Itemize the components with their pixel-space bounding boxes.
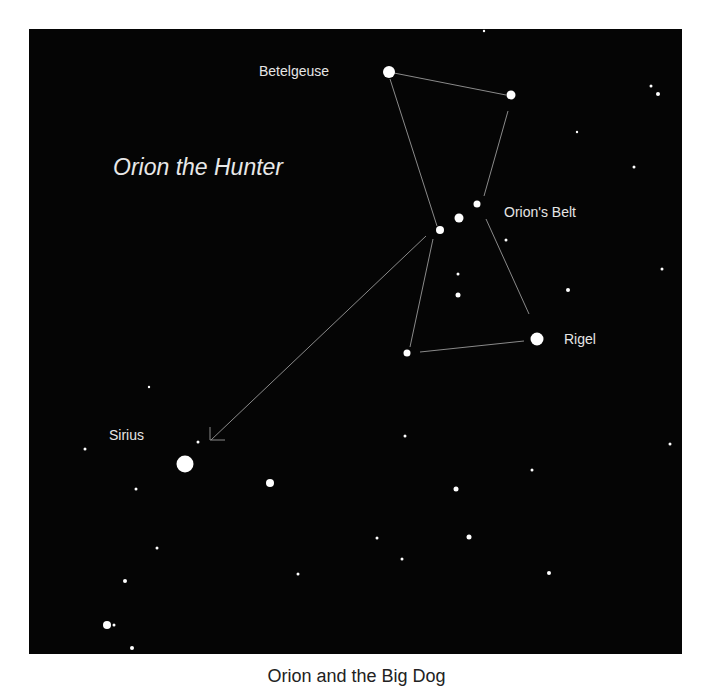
star — [148, 386, 150, 388]
star — [156, 547, 159, 550]
line-belt-saiph — [410, 239, 433, 347]
label-betelgeuse: Betelgeuse — [259, 63, 329, 79]
line-betelgeuse-bellatrix — [394, 73, 506, 95]
star — [531, 469, 534, 472]
star-rigel — [531, 333, 544, 346]
star — [656, 92, 660, 96]
star-belt-alnilam — [455, 214, 464, 223]
star-chart: Orion the Hunter Betelgeuse Orion's Belt… — [29, 29, 682, 654]
arrow-to-sirius — [211, 236, 426, 440]
star — [576, 131, 578, 133]
star — [404, 435, 407, 438]
diagram-title: Orion the Hunter — [113, 154, 283, 181]
star-saiph — [404, 350, 411, 357]
star-sirius — [177, 456, 194, 473]
star-belt-alnitak — [436, 226, 444, 234]
star — [650, 85, 653, 88]
line-saiph-rigel — [420, 341, 524, 352]
star — [113, 624, 116, 627]
star — [467, 535, 472, 540]
star — [669, 443, 672, 446]
line-belt-rigel — [486, 219, 529, 314]
star — [123, 579, 127, 583]
star — [401, 558, 404, 561]
star — [483, 30, 485, 32]
star — [103, 621, 111, 629]
line-bellatrix-belt — [484, 111, 508, 196]
figure-caption: Orion and the Big Dog — [0, 666, 713, 687]
constellation-lines — [210, 73, 529, 440]
star — [197, 441, 200, 444]
star — [661, 268, 664, 271]
label-rigel: Rigel — [564, 331, 596, 347]
star-belt-mintaka — [474, 201, 481, 208]
star — [505, 239, 508, 242]
star — [454, 487, 459, 492]
line-betelgeuse-belt — [390, 79, 437, 226]
star — [456, 293, 461, 298]
star — [84, 448, 87, 451]
star — [457, 273, 460, 276]
star — [633, 166, 636, 169]
star — [376, 537, 379, 540]
label-sirius: Sirius — [109, 427, 144, 443]
star — [266, 479, 274, 487]
label-orions-belt: Orion's Belt — [504, 204, 576, 220]
star — [130, 646, 134, 650]
star-bellatrix — [507, 91, 516, 100]
star — [566, 288, 570, 292]
star — [297, 573, 300, 576]
star — [135, 488, 138, 491]
star — [547, 571, 551, 575]
star-betelgeuse — [383, 66, 395, 78]
